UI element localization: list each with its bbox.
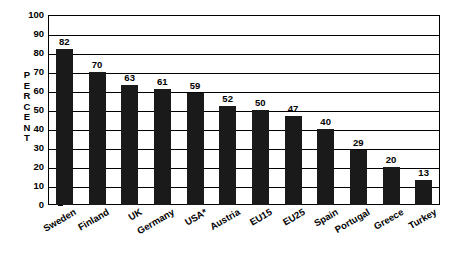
bar — [252, 110, 269, 205]
bar — [121, 85, 138, 205]
x-axis-tick-label: Portugal — [333, 207, 371, 235]
y-axis-tick-label: 10 — [20, 181, 44, 191]
bar-value-label: 70 — [82, 60, 112, 70]
bar — [317, 129, 334, 205]
bar-value-label: 61 — [147, 77, 177, 87]
y-axis-tick-mark — [58, 205, 63, 206]
y-axis-tick-label: 60 — [20, 86, 44, 96]
bar — [154, 89, 171, 205]
bars-layer: 827063615952504740292013 — [48, 15, 440, 205]
y-axis-tick-label: 30 — [20, 143, 44, 153]
bar-value-label: 59 — [180, 81, 210, 91]
x-axis-tick-labels: SwedenFinlandUKGermanyUSA*AustriaEU15EU2… — [48, 207, 440, 254]
bar-value-label: 47 — [278, 104, 308, 114]
bar — [187, 93, 204, 205]
bar-value-label: 20 — [376, 155, 406, 165]
y-axis-tick-label: 0 — [20, 200, 44, 210]
x-axis-tick-label: USA* — [183, 207, 209, 228]
x-axis-tick-label: EU25 — [281, 207, 307, 228]
x-axis-tick-label: Turkey — [407, 207, 438, 231]
y-axis-tick-label: 50 — [20, 105, 44, 115]
bar-value-label: 13 — [409, 168, 439, 178]
y-axis-tick-label: 40 — [20, 124, 44, 134]
y-axis-tick-label: 80 — [20, 48, 44, 58]
bar — [415, 180, 432, 205]
bar — [383, 167, 400, 205]
bar — [219, 106, 236, 205]
bar — [89, 72, 106, 205]
bar-value-label: 52 — [213, 94, 243, 104]
bar-value-label: 82 — [49, 37, 79, 47]
y-axis-tick-label: 70 — [20, 67, 44, 77]
x-axis-tick-label: UK — [126, 207, 143, 223]
bar — [56, 49, 73, 205]
y-axis-tick-label: 90 — [20, 29, 44, 39]
y-axis-tick-label: 100 — [20, 10, 44, 20]
x-axis-tick-label: Sweden — [42, 207, 78, 234]
bar-value-label: 29 — [343, 138, 373, 148]
bar — [350, 150, 367, 205]
bar-chart: P E R C E N T 0102030405060708090100 827… — [0, 0, 449, 254]
x-axis-tick-label: Austria — [208, 207, 241, 232]
bar-value-label: 63 — [115, 73, 145, 83]
bar-value-label: 50 — [245, 98, 275, 108]
x-axis-tick-label: Greece — [372, 207, 405, 232]
bar — [285, 116, 302, 205]
y-axis-tick-labels: 0102030405060708090100 — [14, 15, 44, 205]
bar-value-label: 40 — [311, 117, 341, 127]
y-axis-tick-label: 20 — [20, 162, 44, 172]
x-axis-tick-label: EU15 — [249, 207, 275, 228]
x-axis-tick-label: Finland — [77, 207, 111, 233]
